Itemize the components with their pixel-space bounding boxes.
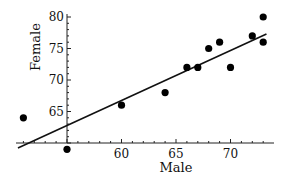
x-tick-label: 65	[168, 147, 183, 161]
data-point	[260, 39, 267, 46]
data-point	[183, 64, 190, 71]
data-point	[249, 32, 256, 39]
data-point	[260, 13, 267, 20]
data-point	[194, 64, 201, 71]
y-tick-label: 80	[49, 10, 64, 24]
x-tick-label: 70	[223, 147, 238, 161]
data-point	[216, 39, 223, 46]
x-tick-label: 60	[114, 147, 129, 161]
data-point	[205, 45, 212, 52]
axes: 60657065707580	[16, 10, 274, 161]
y-axis-label: Female	[28, 23, 43, 71]
x-axis-label: Male	[160, 160, 193, 175]
data-point	[20, 114, 27, 121]
scatter-chart: 60657065707580 Male Female	[0, 0, 286, 180]
y-tick-label: 65	[49, 105, 64, 119]
y-tick-label: 70	[49, 73, 64, 87]
data-point	[118, 102, 125, 109]
data-point	[63, 146, 70, 153]
data-point	[227, 64, 234, 71]
y-tick-label: 75	[49, 42, 64, 56]
data-point	[162, 89, 169, 96]
